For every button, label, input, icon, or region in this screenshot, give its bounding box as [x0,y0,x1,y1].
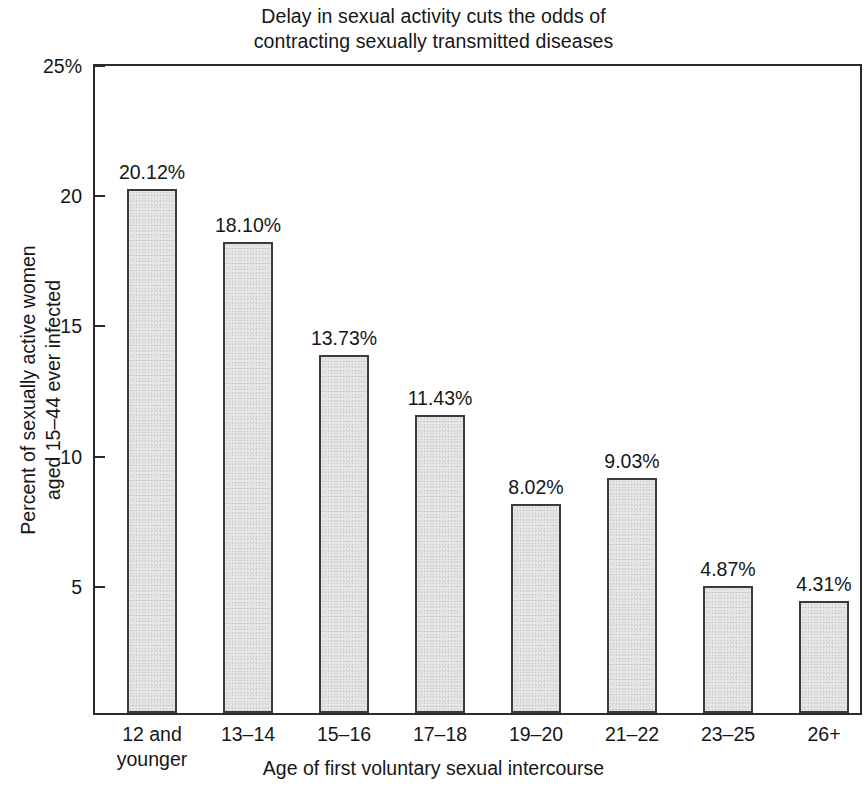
x-axis-tick-label-line: 19–20 [509,722,563,747]
y-axis-title: Percent of sexually active women aged 15… [16,170,66,610]
y-axis-tick-mark [95,325,105,327]
bar: 4.31% [799,601,849,713]
plot-area: Percent of sexually active women aged 15… [93,64,862,715]
y-axis-tick-mark [95,195,105,197]
y-axis-tick-mark [95,586,105,588]
bar: 20.12% [127,189,177,713]
y-axis-tick-label: 20 [60,185,95,208]
bar: 13.73% [319,355,369,713]
x-axis-title: Age of first voluntary sexual intercours… [0,757,867,780]
x-axis-tick-label: 26+ [807,722,840,747]
x-axis-tick-label: 15–16 [317,722,371,747]
bar-value-label: 4.87% [700,558,755,581]
y-axis-title-line-2: aged 15–44 ever infected [41,170,66,610]
chart-title-line-1: Delay in sexual activity cuts the odds o… [0,4,867,29]
x-axis-tick-label: 23–25 [701,722,755,747]
bar-value-label: 18.10% [215,214,281,237]
bar: 9.03% [607,478,657,713]
y-axis-tick-label: 15 [60,315,95,338]
chart-title-line-2: contracting sexually transmitted disease… [0,29,867,54]
x-axis-tick-label-line: 26+ [807,722,840,747]
bar: 8.02% [511,504,561,713]
chart-title: Delay in sexual activity cuts the odds o… [0,4,867,54]
x-axis-tick-label: 17–18 [413,722,467,747]
x-axis-tick-label: 19–20 [509,722,563,747]
x-axis-tick-label-line: 23–25 [701,722,755,747]
bar-chart-figure: Delay in sexual activity cuts the odds o… [0,0,867,786]
bar-value-label: 8.02% [508,476,563,499]
y-axis-tick-label: 10 [60,445,95,468]
y-axis-tick-mark [95,65,105,67]
x-axis-tick-label-line: 12 and [117,722,187,747]
bar-value-label: 11.43% [408,387,473,410]
x-axis-tick-label-line: 21–22 [605,722,659,747]
bar: 18.10% [223,242,273,713]
bar-value-label: 13.73% [311,327,377,350]
y-axis-tick-label: 25% [43,55,95,78]
bar: 11.43% [415,415,465,713]
x-axis-tick-label: 13–14 [221,722,275,747]
bar-value-label: 4.31% [796,573,851,596]
x-axis-tick-label-line: 13–14 [221,722,275,747]
x-axis-tick-label-line: 15–16 [317,722,371,747]
y-axis-title-line-1: Percent of sexually active women [16,170,41,610]
x-axis-tick-label-line: 17–18 [413,722,467,747]
bar: 4.87% [703,586,753,713]
bar-value-label: 20.12% [119,161,185,184]
x-axis-tick-label: 21–22 [605,722,659,747]
y-axis-tick-label: 5 [71,575,95,598]
y-axis-tick-mark [95,456,105,458]
bar-value-label: 9.03% [604,450,659,473]
